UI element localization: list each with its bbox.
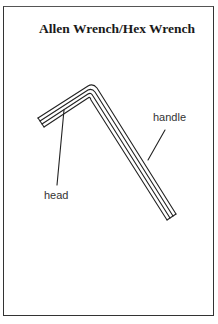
head-leader-line <box>57 110 64 185</box>
handle-leader-line <box>148 130 165 160</box>
allen-wrench-drawing <box>0 0 218 324</box>
handle-label: handle <box>153 111 186 123</box>
head-label: head <box>44 189 68 201</box>
